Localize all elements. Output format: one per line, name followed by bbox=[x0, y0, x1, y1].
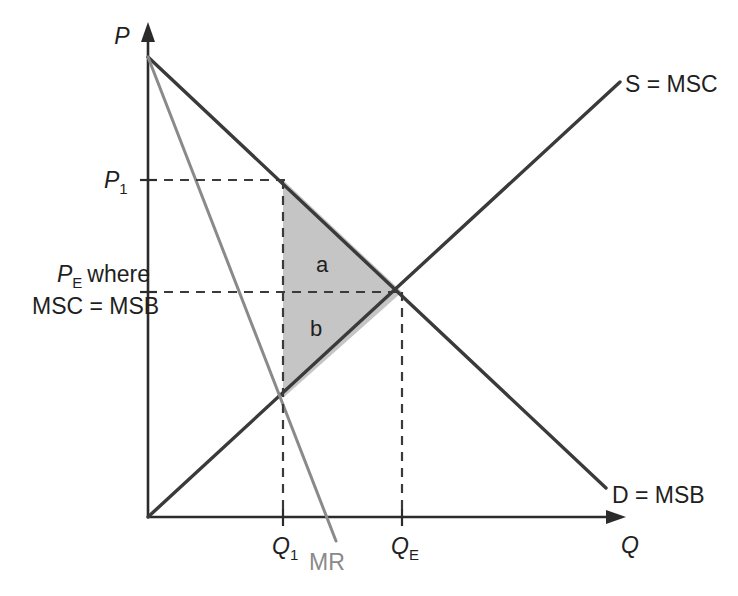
marginal-revenue-label: MR bbox=[309, 549, 345, 575]
diagram-canvas: P Q S = MSC D = MSB MR P1 PEwhere MSC = … bbox=[0, 0, 738, 596]
q1-label-main: Q bbox=[272, 533, 290, 559]
price-axis-arrowhead bbox=[141, 22, 155, 42]
pe-condition-label: MSC = MSB bbox=[32, 293, 159, 319]
q1-label: Q1 bbox=[272, 533, 298, 563]
supply-curve-label: S = MSC bbox=[625, 71, 718, 97]
p1-label-subscript: 1 bbox=[119, 180, 127, 197]
supply-curve bbox=[148, 82, 620, 517]
qe-label-main: Q bbox=[391, 533, 409, 559]
area-a-label: a bbox=[316, 252, 329, 277]
qe-label-subscript: E bbox=[409, 546, 419, 563]
quantity-axis-label: Q bbox=[621, 532, 639, 558]
deadweight-loss-shaded-region bbox=[283, 180, 402, 398]
p1-label-main: P bbox=[104, 167, 120, 193]
pe-label-line1: PEwhere bbox=[57, 261, 150, 291]
area-b-label: b bbox=[310, 316, 322, 341]
quantity-axis-arrowhead bbox=[606, 510, 626, 524]
q1-label-subscript: 1 bbox=[290, 546, 298, 563]
pe-label-where: where bbox=[86, 261, 150, 287]
demand-curve-label: D = MSB bbox=[612, 482, 705, 508]
pe-label-main: P bbox=[57, 261, 73, 287]
qe-label: QE bbox=[391, 533, 419, 563]
p1-label: P1 bbox=[104, 167, 128, 197]
price-axis-label: P bbox=[114, 23, 130, 49]
supply-demand-diagram: P Q S = MSC D = MSB MR P1 PEwhere MSC = … bbox=[0, 0, 738, 596]
demand-curve bbox=[148, 57, 606, 488]
pe-label-subscript: E bbox=[72, 274, 82, 291]
